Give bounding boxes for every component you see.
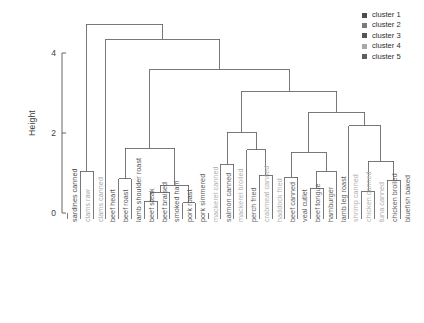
legend-item-cluster-4[interactable]: cluster 4 xyxy=(362,41,401,51)
leaf-label: perch fried xyxy=(249,187,258,222)
leaf-label: crabmeat canned xyxy=(262,166,271,222)
leaf-label: beef braised xyxy=(160,182,169,222)
leaf-label: clams raw xyxy=(83,189,92,222)
legend-label: cluster 3 xyxy=(372,31,401,41)
legend-item-cluster-3[interactable]: cluster 3 xyxy=(362,31,401,41)
leaf-label: beef tongue xyxy=(313,183,322,222)
leaf-label: chicken broiled xyxy=(390,173,399,222)
leaf-label: hamburger xyxy=(326,187,335,222)
leaf-label: chicken canned xyxy=(364,171,373,222)
legend-swatch-icon xyxy=(362,33,367,38)
leaf-label: beef heart xyxy=(108,189,117,222)
leaf-label: bluefish baked xyxy=(403,175,412,222)
legend-swatch-icon xyxy=(362,13,367,18)
leaf-label: beef roast xyxy=(121,190,130,222)
leaf-label: mackerel canned xyxy=(211,167,220,222)
leaf-label: lamb shoulder roast xyxy=(134,158,143,222)
legend-label: cluster 2 xyxy=(372,20,401,30)
leaf-label: tuna canned xyxy=(377,182,386,222)
leaf-label: haddock fried xyxy=(275,178,284,222)
leaf-label: shrimp canned xyxy=(351,174,360,222)
legend-label: cluster 1 xyxy=(372,10,401,20)
legend-label: cluster 5 xyxy=(372,52,401,62)
legend-swatch-icon xyxy=(362,54,367,59)
leaf-label: sardines canned xyxy=(70,169,79,223)
legend-item-cluster-5[interactable]: cluster 5 xyxy=(362,52,401,62)
leaf-label: smoked ham xyxy=(172,180,181,222)
legend-swatch-icon xyxy=(362,44,367,49)
leaf-label: clams canned xyxy=(96,177,105,222)
legend-label: cluster 4 xyxy=(372,41,401,51)
legend-item-cluster-2[interactable]: cluster 2 xyxy=(362,20,401,30)
leaf-label: lamb leg roast xyxy=(339,176,348,222)
dendrogram-plot xyxy=(0,0,424,323)
cluster-legend: cluster 1cluster 2cluster 3cluster 4clus… xyxy=(362,10,401,62)
dendrogram-figure: Height 024 sardines cannedclams rawclams… xyxy=(0,0,424,323)
leaf-label: beef steak xyxy=(147,188,156,222)
leaf-label: pork simmered xyxy=(198,174,207,222)
leaf-label: beef canned xyxy=(288,182,297,222)
legend-item-cluster-1[interactable]: cluster 1 xyxy=(362,10,401,20)
leaf-label: mackerel broiled xyxy=(236,168,245,222)
leaf-label: pork roast xyxy=(185,190,194,222)
leaf-label: salmon canned xyxy=(224,173,233,222)
legend-swatch-icon xyxy=(362,23,367,28)
leaf-label: veal cutlet xyxy=(300,189,309,222)
